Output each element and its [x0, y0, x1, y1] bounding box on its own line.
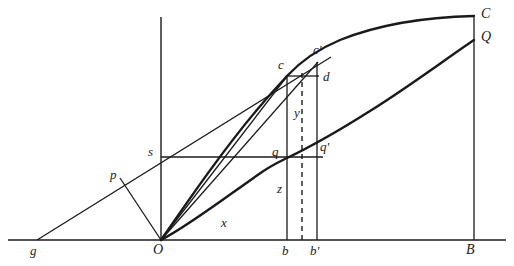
diagram-canvas [0, 0, 514, 266]
label-point-Q: Q [481, 30, 491, 44]
chord-O-p [120, 178, 161, 240]
label-point-d: d [323, 70, 330, 83]
label-point-c-prime: c' [313, 43, 322, 56]
label-point-s: s [148, 145, 153, 158]
label-point-q-prime: q' [320, 140, 329, 153]
label-point-O: O [153, 243, 163, 257]
geometric-diagram: O g B b b' p s q q' c c' d C Q x y z [0, 0, 514, 266]
label-point-p: p [110, 168, 117, 181]
label-point-c: c [278, 58, 284, 71]
label-variable-x: x [221, 216, 227, 229]
chord-O-cprime [161, 62, 318, 240]
label-point-b: b [282, 244, 289, 257]
label-variable-y: y [294, 106, 300, 119]
label-point-B: B [466, 243, 475, 257]
label-point-b-prime: b' [310, 244, 319, 257]
label-variable-z: z [277, 182, 282, 195]
label-point-C: C [481, 7, 490, 21]
label-point-q: q [272, 145, 279, 158]
label-point-g: g [30, 244, 37, 257]
